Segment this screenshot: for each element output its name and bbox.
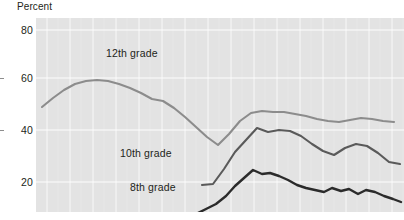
series-label-grade12: 12th grade bbox=[106, 47, 158, 59]
y-axis-tick-60: 60 bbox=[3, 72, 33, 84]
chart-svg bbox=[36, 18, 404, 212]
y-axis-tick-20: 20 bbox=[3, 176, 33, 188]
series-line-grade12 bbox=[42, 80, 394, 145]
series-line-grade8 bbox=[196, 170, 401, 212]
series-label-grade8: 8th grade bbox=[130, 181, 176, 193]
y-axis-tick-80: 80 bbox=[3, 24, 33, 36]
chart-figure: Percent 80 60 40 20 bbox=[0, 0, 404, 220]
y-axis-tick-40: 40 bbox=[3, 124, 33, 136]
plot-area bbox=[36, 18, 404, 212]
y-axis-tick-group: 80 60 40 20 bbox=[0, 0, 33, 220]
left-edge-tick-40 bbox=[0, 130, 4, 131]
horizontal-gridlines bbox=[36, 30, 404, 182]
left-edge-tick-60 bbox=[0, 78, 4, 79]
vertical-gridlines bbox=[47, 18, 392, 212]
series-label-grade10: 10th grade bbox=[120, 147, 172, 159]
series-line-grade10 bbox=[202, 128, 400, 185]
